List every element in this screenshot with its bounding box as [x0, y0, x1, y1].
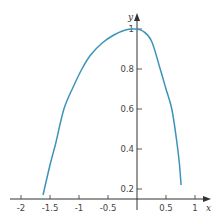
x-axis: -2-1.5-1-0.50.51 — [10, 195, 211, 213]
y-tick-label: 0.4 — [120, 144, 134, 154]
x-axis-label: x — [206, 203, 211, 213]
y-axis: 0.20.40.60.81 — [120, 13, 142, 210]
x-tick-label: -2 — [17, 203, 25, 213]
x-tick-label: 1 — [192, 203, 197, 213]
y-axis-label: y — [127, 12, 134, 22]
chart: -2-1.5-1-0.50.51 0.20.40.60.81 x y — [0, 0, 218, 224]
x-tick-label: 0.5 — [159, 203, 173, 213]
x-tick-label: -0.5 — [100, 203, 117, 213]
y-tick-label: 0.2 — [120, 184, 134, 194]
y-tick-label: 0.8 — [120, 64, 134, 74]
y-tick-label: 0.6 — [120, 104, 134, 114]
x-tick-label: -1 — [75, 203, 83, 213]
x-tick-label: -1.5 — [42, 203, 59, 213]
data-curve — [43, 29, 181, 195]
